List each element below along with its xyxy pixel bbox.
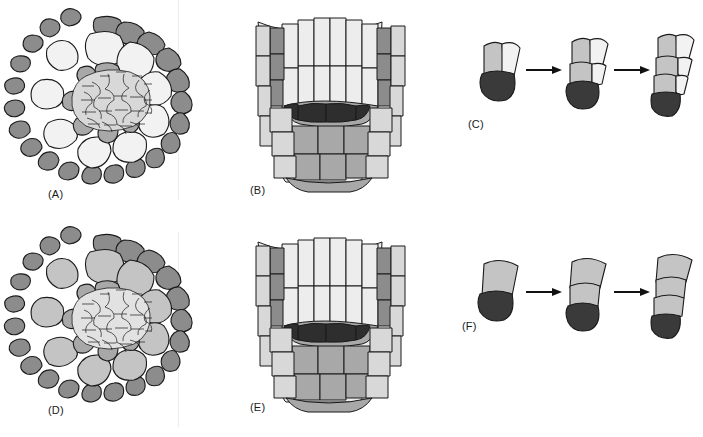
figure-canvas: (A) <box>0 0 703 437</box>
panel-e-label: (E) <box>250 401 265 413</box>
panel-f-label: (F) <box>462 320 477 332</box>
panel-d-label: (D) <box>48 404 64 416</box>
stage-2-c <box>566 38 608 109</box>
panel-e: (E) <box>240 228 420 408</box>
stage-2-f <box>566 258 606 331</box>
stage-1-c <box>480 42 520 101</box>
panel-b-label: (B) <box>250 184 265 196</box>
panel-c: (C) <box>462 28 697 128</box>
columella-b <box>292 126 370 180</box>
columella-e <box>292 346 370 400</box>
panel-e-drawing <box>240 228 420 408</box>
stage-3-f <box>651 254 692 338</box>
panel-f-drawing <box>462 250 697 350</box>
quiescent-centre-e <box>284 323 370 342</box>
panel-c-label: (C) <box>468 118 484 130</box>
cell-files-e <box>282 238 378 328</box>
arrow-1-f <box>526 288 562 296</box>
arrow-2-f <box>614 288 650 296</box>
arrow-2-c <box>614 66 650 74</box>
panel-c-drawing <box>462 28 697 128</box>
quiescent-centre-b <box>284 103 370 122</box>
panel-d-drawing <box>18 228 198 408</box>
panel-b: (B) <box>240 8 420 188</box>
panel-b-drawing <box>240 8 420 188</box>
panel-a-drawing <box>18 10 198 190</box>
panel-f: (F) <box>462 250 697 350</box>
stage-1-f <box>478 260 518 321</box>
panel-a-label: (A) <box>48 188 63 200</box>
cell-files-b <box>282 18 378 108</box>
stage-3-c <box>651 34 694 116</box>
panel-d: (D) <box>18 228 198 408</box>
panel-a: (A) <box>18 10 198 190</box>
arrow-1-c <box>526 66 562 74</box>
